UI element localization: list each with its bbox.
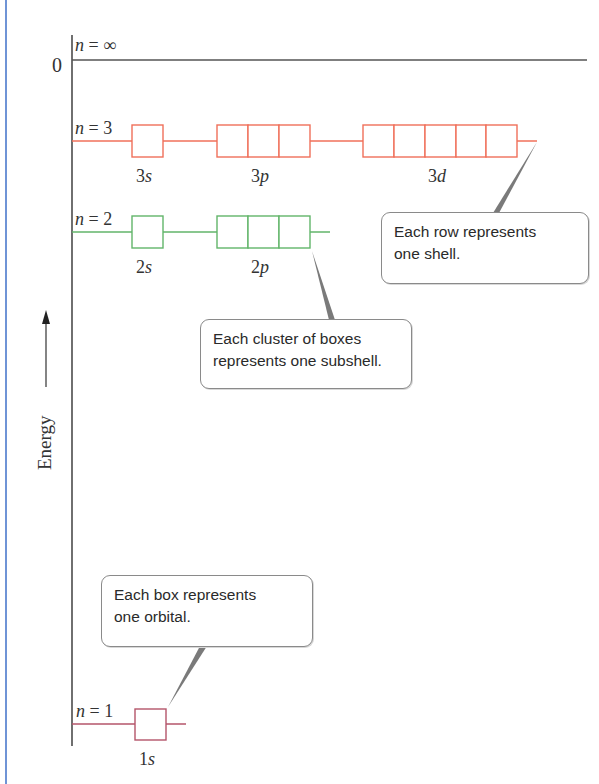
callout-orbital: Each box represents one orbital. (101, 575, 313, 647)
orbital-box-3d-5 (486, 125, 517, 157)
orbital-box-1s (135, 709, 166, 740)
energy-axis-label: Energy (34, 310, 55, 470)
level-label-n1: n = 1 (76, 701, 113, 721)
level-label-n2: n = 2 (75, 209, 112, 229)
callout-shell-line2: one shell. (394, 243, 576, 265)
subshell-label-3d: 3d (428, 166, 447, 186)
orbital-box-3d-1 (363, 125, 394, 157)
orbital-box-3p-1 (217, 125, 248, 157)
subshell-label-3p: 3p (251, 166, 269, 186)
orbital-box-2p-3 (279, 216, 310, 248)
callout-shell: Each row represents one shell. (381, 212, 589, 284)
energy-level-diagram: 0 n = ∞ Energy n = 3 3s 3p 3d n = 2 2s 2… (0, 0, 599, 784)
callout-subshell: Each cluster of boxes represents one sub… (200, 319, 412, 389)
shell-n3 (72, 125, 537, 157)
callout-pointer-orbital (168, 646, 207, 707)
orbital-box-3s (132, 125, 163, 157)
callout-subshell-line2: represents one subshell. (213, 350, 399, 372)
callout-pointer-subshell (312, 251, 335, 320)
orbital-box-2s (132, 216, 163, 248)
orbital-box-2p-2 (248, 216, 279, 248)
orbital-box-3d-3 (425, 125, 456, 157)
subshell-label-2s: 2s (136, 257, 152, 277)
up-arrow-icon (42, 310, 50, 324)
callout-shell-line1: Each row represents (394, 221, 576, 243)
callout-orbital-line2: one orbital. (114, 606, 300, 628)
orbital-box-3p-3 (279, 125, 310, 157)
energy-label: Energy (34, 415, 55, 470)
subshell-label-3s: 3s (136, 166, 152, 186)
callout-orbital-line1: Each box represents (114, 584, 300, 606)
zero-label: 0 (52, 54, 62, 76)
level-label-infinity: n = ∞ (75, 35, 116, 55)
orbital-box-3d-4 (456, 125, 486, 157)
orbital-box-2p-1 (217, 216, 248, 248)
orbital-box-3p-2 (248, 125, 279, 157)
orbital-box-3d-2 (394, 125, 425, 157)
callout-subshell-line1: Each cluster of boxes (213, 328, 399, 350)
subshell-label-2p: 2p (251, 257, 269, 277)
subshell-label-1s: 1s (139, 749, 155, 769)
level-label-n3: n = 3 (75, 118, 112, 138)
